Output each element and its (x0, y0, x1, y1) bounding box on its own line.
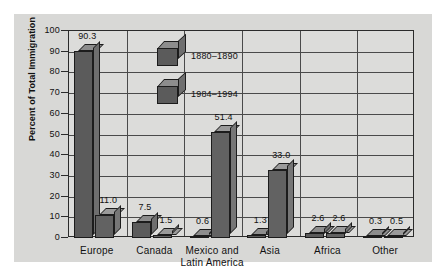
bar-value-label: 33.0 (265, 150, 297, 160)
bar-front-face (268, 170, 287, 238)
y-axis-tick-label: 70 (50, 87, 60, 97)
y-axis-tick-mark (61, 134, 68, 135)
bar-front-face (153, 235, 172, 238)
bar-side-face (93, 41, 100, 235)
bar-side-face (287, 159, 294, 234)
bar-value-label: 51.4 (208, 112, 240, 122)
bar-value-label: 2.6 (323, 213, 355, 223)
y-axis-tick-mark (61, 196, 68, 197)
bar-side-face (230, 121, 237, 234)
y-axis-tick-label: 20 (50, 191, 60, 201)
y-axis-tick-label: 50 (50, 129, 60, 139)
y-axis-tick-label: 40 (50, 149, 60, 159)
bar-front-face (74, 51, 93, 238)
legend-label: 1880–1890 (191, 51, 238, 61)
grid-line-horizontal (69, 72, 413, 73)
grid-line-vertical (300, 31, 301, 236)
bar-side-face (114, 205, 121, 235)
bar-front-face (95, 215, 114, 238)
chart-figure: Percent of Total Immigration 10090807060… (14, 14, 432, 262)
bar-front-face (363, 236, 382, 238)
y-axis-tick-mark (61, 216, 68, 217)
bar-front-face (305, 233, 324, 238)
y-axis-tick-mark (61, 71, 68, 72)
y-axis-tick-mark (61, 113, 68, 114)
category-label-line: Other (346, 245, 424, 257)
bar-top-face (157, 228, 183, 235)
bar-other-series-2 (384, 229, 410, 238)
legend-cube-face (157, 86, 178, 104)
y-axis-tick-label: 10 (50, 211, 60, 221)
y-axis-tick-label: 90 (50, 46, 60, 56)
bar-value-label: 90.3 (71, 31, 103, 41)
y-axis-tick-label: 30 (50, 170, 60, 180)
y-axis-tick-mark (61, 237, 68, 238)
legend-cube-face (157, 48, 178, 66)
y-axis-tick-mark (61, 92, 68, 93)
legend-label: 1984–1994 (191, 89, 238, 99)
grid-line-horizontal (69, 176, 413, 177)
grid-line-horizontal (69, 52, 413, 53)
y-axis-tick-mark (61, 51, 68, 52)
y-axis-tick-label: 80 (50, 66, 60, 76)
bar-front-face (211, 132, 230, 238)
bar-top-face (387, 229, 413, 236)
grid-line-vertical (127, 31, 128, 236)
bar-front-face (132, 222, 151, 238)
bar-canada-series-2 (153, 228, 179, 238)
bar-value-label: 0.5 (381, 216, 413, 226)
y-axis-tick-label: 60 (50, 108, 60, 118)
bar-front-face (326, 233, 345, 238)
bar-front-face (190, 236, 209, 238)
grid-line-vertical (357, 31, 358, 236)
grid-line-horizontal (69, 155, 413, 156)
bar-europe-series-2 (95, 208, 121, 238)
grid-line-horizontal (69, 114, 413, 115)
bar-mexico-and-latin-america-series-2 (211, 125, 237, 238)
bar-value-label: 7.5 (129, 202, 161, 212)
bar-front-face (384, 236, 403, 238)
bar-asia-series-2 (268, 163, 294, 238)
x-axis-category-label: Other (346, 245, 424, 257)
y-axis-tick-mark (61, 30, 68, 31)
y-axis-tick-mark (61, 175, 68, 176)
grid-line-vertical (242, 31, 243, 236)
y-axis-tick-label: 0 (55, 232, 60, 242)
grid-line-horizontal (69, 135, 413, 136)
category-label-line: Latin America (173, 257, 251, 269)
y-axis: 1009080706050403020100 (14, 14, 68, 237)
y-axis-tick-label: 100 (44, 25, 60, 35)
grid-line-horizontal (69, 93, 413, 94)
bar-front-face (247, 235, 266, 238)
plot-area: 90.311.07.51.50.651.41.333.02.62.60.30.5… (68, 30, 414, 237)
bar-africa-series-2 (326, 226, 352, 238)
y-axis-tick-mark (61, 154, 68, 155)
bar-value-label: 1.5 (150, 215, 182, 225)
grid-line-vertical (184, 31, 185, 236)
bar-value-label: 11.0 (92, 195, 124, 205)
